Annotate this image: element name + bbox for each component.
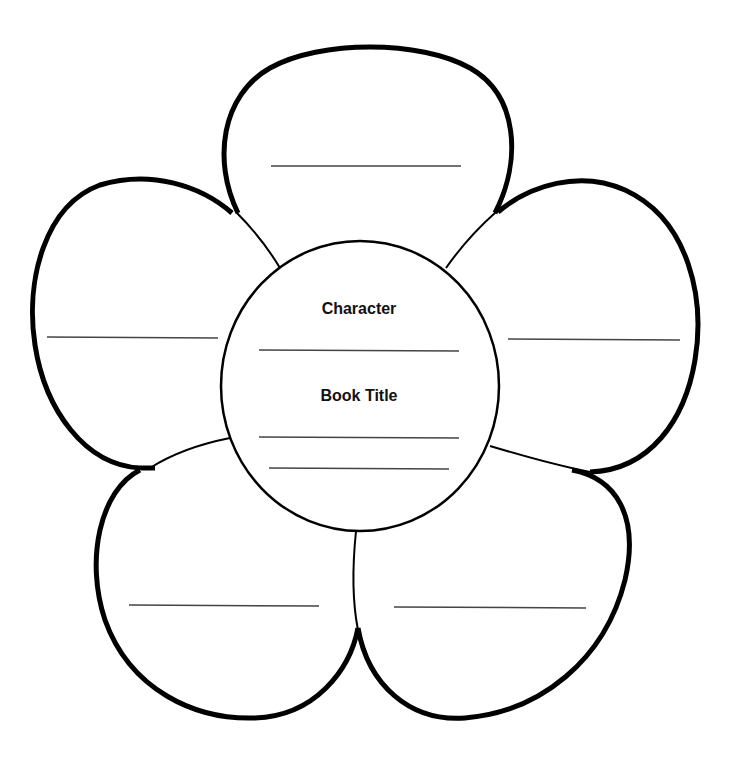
writing-line-right-petal[interactable] <box>508 339 680 340</box>
petal-right <box>498 181 698 472</box>
writing-line-left-petal[interactable] <box>47 337 218 338</box>
petal-top <box>224 47 512 213</box>
petal-bottom-divider <box>353 531 358 630</box>
writing-line-bottom-right-petal[interactable] <box>394 607 586 608</box>
petal-left <box>33 179 232 468</box>
center-circle <box>221 241 499 531</box>
writing-line-bottom-left-petal[interactable] <box>129 605 319 606</box>
petal-right-inner <box>490 446 590 472</box>
writing-line-book-title-2[interactable] <box>269 468 449 469</box>
writing-line-book-title-1[interactable] <box>259 437 459 438</box>
flower-organizer <box>0 0 735 769</box>
petal-top-inner-right <box>446 212 496 268</box>
writing-line-character[interactable] <box>259 350 459 351</box>
petal-top-inner-left <box>236 212 280 268</box>
book-title-label: Book Title <box>259 387 459 405</box>
character-label: Character <box>259 300 459 318</box>
